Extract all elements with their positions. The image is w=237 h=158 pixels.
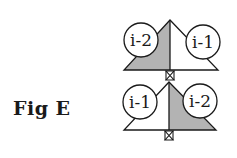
diagram-canvas: i-2 i-1 i-1 i-2 — [0, 0, 237, 158]
bottom-right-circle: i-2 — [183, 84, 217, 118]
bottom-left-circle: i-1 — [123, 85, 157, 119]
top-right-circle: i-1 — [186, 25, 220, 59]
bottom-bowtie-icon — [165, 131, 173, 140]
top-left-circle: i-2 — [124, 23, 158, 57]
bottom-right-circle-label: i-2 — [189, 91, 211, 111]
bottom-left-circle-label: i-1 — [129, 92, 151, 112]
bottom-panel: i-1 i-2 — [123, 82, 217, 140]
top-right-circle-label: i-1 — [192, 32, 214, 52]
top-left-circle-label: i-2 — [130, 30, 152, 50]
top-panel: i-2 i-1 — [124, 20, 220, 80]
top-bowtie-icon — [166, 71, 174, 80]
